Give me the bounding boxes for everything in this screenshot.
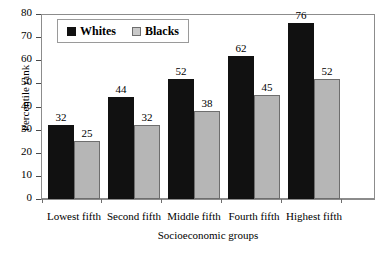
- bar-blacks-3: 38: [194, 111, 220, 199]
- bar-value-label: 44: [116, 83, 127, 95]
- bar-value-label: 52: [176, 65, 187, 77]
- bar-group: 7652: [288, 14, 340, 199]
- bar-value-label: 32: [142, 111, 153, 123]
- x-axis-line: [41, 199, 375, 200]
- legend: WhitesBlacks: [57, 19, 189, 43]
- bar-value-label: 25: [82, 127, 93, 139]
- bar-blacks-5: 52: [314, 79, 340, 199]
- y-axis-tick-label: 60: [21, 52, 32, 64]
- x-axis-tick-mark: [341, 199, 342, 203]
- bar-whites-5: 76: [288, 23, 314, 199]
- y-axis-tick-label: 0: [27, 191, 33, 203]
- x-axis-tick-mark: [101, 199, 102, 203]
- legend-item-blacks: Blacks: [132, 24, 179, 39]
- legend-swatch-whites: [67, 27, 76, 36]
- bar-blacks-2: 32: [134, 125, 160, 199]
- x-axis-tick-mark: [281, 199, 282, 203]
- bar-chart: Percentile rank 80706050403020100 322544…: [0, 0, 390, 255]
- y-axis-tick-label: 80: [21, 6, 32, 18]
- x-axis-tick-mark: [221, 199, 222, 203]
- x-axis-title: Socioeconomic groups: [41, 229, 375, 241]
- y-axis-tick-label: 30: [21, 122, 32, 134]
- legend-label-blacks: Blacks: [145, 24, 179, 39]
- bar-whites-1: 32: [48, 125, 74, 199]
- y-axis-tick-label: 10: [21, 168, 32, 180]
- bar-whites-2: 44: [108, 97, 134, 199]
- bar-value-label: 52: [322, 65, 333, 77]
- y-axis-tick-label: 20: [21, 145, 32, 157]
- y-axis-tick-label: 40: [21, 99, 32, 111]
- x-axis-label-5: Highest fifth: [271, 210, 357, 222]
- bar-value-label: 76: [296, 9, 307, 21]
- bar-blacks-1: 25: [74, 141, 100, 199]
- y-axis-tick-label: 50: [21, 75, 32, 87]
- bar-value-label: 62: [236, 42, 247, 54]
- y-axis-tick-label: 70: [21, 29, 32, 41]
- bar-whites-4: 62: [228, 56, 254, 199]
- legend-swatch-blacks: [132, 27, 141, 36]
- x-axis-tick-mark: [42, 199, 43, 203]
- bar-whites-3: 52: [168, 79, 194, 199]
- x-axis-tick-mark: [161, 199, 162, 203]
- bar-value-label: 32: [56, 111, 67, 123]
- bar-blacks-4: 45: [254, 95, 280, 199]
- bar-value-label: 38: [202, 97, 213, 109]
- bar-value-label: 45: [262, 81, 273, 93]
- bar-group: 6245: [228, 14, 280, 199]
- legend-item-whites: Whites: [67, 24, 116, 39]
- legend-label-whites: Whites: [80, 24, 116, 39]
